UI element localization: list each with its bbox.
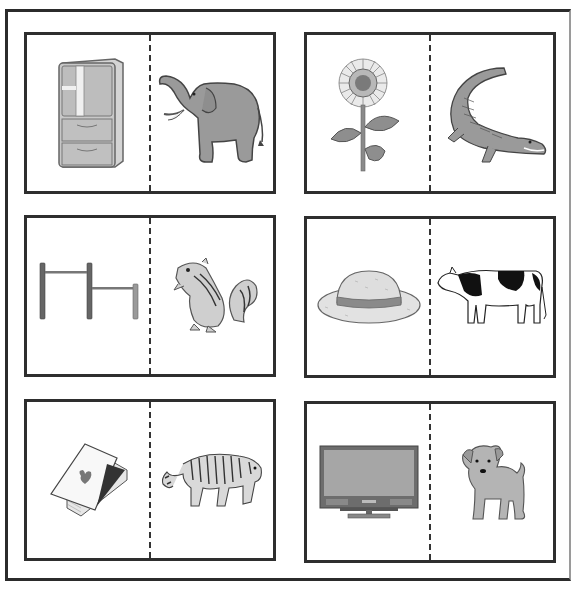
card-right-half: tiger xyxy=(150,402,273,558)
card-bars-chipmunk: horizontal bars chipmunk xyxy=(24,215,276,377)
card-left-half: sunflower xyxy=(307,35,430,191)
card-sunflower-crocodile: sunflower crocodile xyxy=(304,32,556,194)
card-left-half: horizontal bars xyxy=(27,218,150,374)
card-right-half: puppy xyxy=(430,404,553,560)
horizontal-bars-icon xyxy=(34,261,144,331)
card-hat-cow: straw hat cow xyxy=(304,216,556,378)
tiger-icon xyxy=(159,448,265,512)
playing-cards-icon xyxy=(47,440,131,520)
crocodile-icon xyxy=(434,58,550,168)
card-left-half: playing cards xyxy=(27,402,150,558)
puppy-icon xyxy=(457,439,527,525)
refrigerator-icon xyxy=(49,53,129,173)
card-right-half: crocodile xyxy=(430,35,553,191)
straw-hat-icon xyxy=(315,267,423,327)
card-left-half: straw hat xyxy=(307,219,430,375)
card-right-half: elephant xyxy=(150,35,273,191)
card-cards-tiger: playing cards tiger xyxy=(24,399,276,561)
sunflower-icon xyxy=(329,53,409,173)
card-left-half: refrigerator xyxy=(27,35,150,191)
card-left-half: television xyxy=(307,404,430,560)
cow-icon xyxy=(436,265,548,329)
card-right-half: cow xyxy=(430,219,553,375)
card-right-half: chipmunk xyxy=(150,218,273,374)
television-icon xyxy=(318,444,420,520)
elephant-icon xyxy=(154,58,270,168)
card-tv-puppy: television puppy xyxy=(304,401,556,563)
card-refrigerator-elephant: refrigerator elephant xyxy=(24,32,276,194)
chipmunk-icon xyxy=(164,256,260,336)
